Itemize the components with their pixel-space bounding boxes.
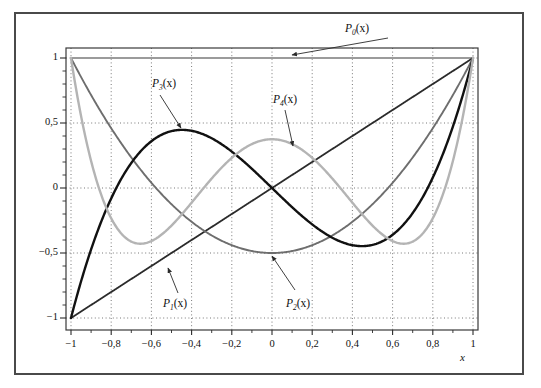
x-axis-label: x bbox=[460, 351, 465, 363]
y-tick-label-0: −1 bbox=[24, 311, 58, 322]
P2-annotation-arrow bbox=[272, 256, 295, 290]
x-tick-label-8: 0,6 bbox=[381, 338, 405, 349]
x-tick-label-3: −0,4 bbox=[180, 338, 204, 349]
x-tick-label-4: −0,2 bbox=[220, 338, 244, 349]
curve-p4 bbox=[71, 58, 473, 244]
x-tick-label-1: −0,8 bbox=[99, 338, 123, 349]
y-tick-label-4: 1 bbox=[24, 51, 58, 62]
y-tick-label-1: −0,5 bbox=[24, 246, 58, 257]
x-tick-label-5: 0 bbox=[260, 338, 284, 349]
P0-annotation-arrow bbox=[292, 38, 388, 55]
axis-ticks bbox=[60, 58, 473, 335]
x-tick-label-6: 0,2 bbox=[300, 338, 324, 349]
P1-annotation-arrow bbox=[168, 268, 178, 293]
x-tick-label-0: −1 bbox=[59, 338, 83, 349]
P3-annotation: P3(x) bbox=[152, 77, 176, 92]
P1-annotation: P1(x) bbox=[163, 297, 187, 312]
y-tick-label-2: 0 bbox=[24, 181, 58, 192]
x-tick-label-10: 1 bbox=[461, 338, 485, 349]
x-tick-label-7: 0,4 bbox=[340, 338, 364, 349]
P2-annotation: P2(x) bbox=[286, 297, 310, 312]
x-tick-label-9: 0,8 bbox=[421, 338, 445, 349]
x-tick-label-2: −0,6 bbox=[139, 338, 163, 349]
y-tick-label-3: 0,5 bbox=[24, 116, 58, 127]
curve-p2 bbox=[71, 58, 473, 253]
chart-canvas bbox=[0, 0, 541, 388]
P4-annotation: P4(x) bbox=[273, 93, 297, 108]
annotation-arrows bbox=[160, 38, 388, 293]
P0-annotation: P0(x) bbox=[345, 22, 369, 37]
